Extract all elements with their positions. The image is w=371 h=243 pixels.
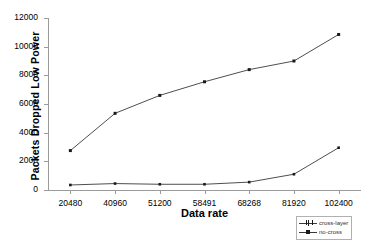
series-line-cross-layer <box>70 148 338 185</box>
y-tick: 0 <box>44 190 48 191</box>
data-point <box>248 181 251 184</box>
data-point <box>337 33 340 36</box>
x-tick <box>115 190 116 194</box>
series-plot <box>48 18 361 190</box>
y-tick-label: 6000 <box>19 98 38 108</box>
y-tick-label: 0 <box>33 184 38 194</box>
y-tick-label: 4000 <box>19 127 38 137</box>
chart-container: Packets Dropped Low Power 02000400060008… <box>0 0 371 243</box>
data-point <box>293 173 296 176</box>
legend-label-no-cross: no-cross <box>319 229 342 235</box>
data-point <box>337 146 340 149</box>
data-point <box>114 182 117 185</box>
legend-item-no-cross[interactable]: no-cross <box>299 228 348 236</box>
data-point <box>158 183 161 186</box>
data-point <box>69 149 72 152</box>
data-point <box>203 80 206 83</box>
legend: cross-layer no-cross <box>296 216 352 240</box>
data-point <box>69 184 72 187</box>
y-tick-label: 2000 <box>19 155 38 165</box>
data-point <box>158 94 161 97</box>
x-tick <box>205 190 206 194</box>
y-tick-label: 10000 <box>14 41 38 51</box>
data-point <box>248 68 251 71</box>
legend-item-cross-layer[interactable]: cross-layer <box>299 219 348 227</box>
series-line-no-cross <box>70 34 338 150</box>
plot-area: 020004000600080001000012000 204804096051… <box>48 18 361 190</box>
y-tick-label: 8000 <box>19 69 38 79</box>
data-point <box>292 60 295 63</box>
x-tick <box>249 190 250 194</box>
x-tick <box>294 190 295 194</box>
y-tick-label: 12000 <box>14 12 38 22</box>
x-tick <box>70 190 71 194</box>
data-point <box>203 183 206 186</box>
legend-marker-cross-layer-icon <box>299 219 317 227</box>
x-tick <box>339 190 340 194</box>
legend-label-cross-layer: cross-layer <box>319 220 348 226</box>
x-tick <box>160 190 161 194</box>
data-point <box>114 112 117 115</box>
legend-marker-no-cross-icon <box>299 228 317 236</box>
